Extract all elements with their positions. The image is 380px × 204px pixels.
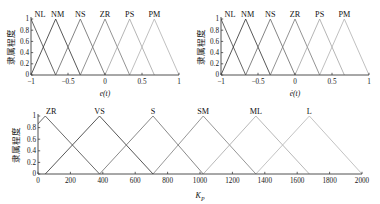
- mf-name-label-nm: NM: [241, 10, 255, 19]
- mf-triangle-l: [256, 116, 362, 174]
- mf-triangle-vs: [45, 116, 153, 174]
- mf-name-label-sm: SM: [197, 107, 210, 116]
- x-tick-label: 400: [97, 177, 108, 185]
- x-tick-label: 800: [162, 177, 173, 185]
- mf-triangle-nm: [221, 19, 270, 75]
- y-tick-label: 1: [32, 112, 36, 120]
- y-tick-label: 0.6: [27, 136, 36, 144]
- x-tick-label: −0.5: [61, 78, 74, 86]
- mf-triangle-pm: [130, 19, 179, 75]
- mf-triangle-sm: [153, 116, 256, 174]
- mf-name-label-ns: NS: [265, 10, 276, 19]
- mf-triangle-zr: [270, 19, 319, 75]
- x-tick-label: 0: [36, 177, 40, 185]
- y-tick-label: 0.4: [27, 147, 36, 155]
- mf-name-label-vs: VS: [94, 107, 105, 116]
- y-tick-label: 0.2: [27, 159, 36, 167]
- x-tick-label: 1400: [258, 177, 273, 185]
- x-tick-label: 0.5: [328, 78, 337, 86]
- mf-name-label-nm: NM: [51, 10, 65, 19]
- mf-triangle-ns: [56, 19, 105, 75]
- chart-panel-kp: 隶属程度 00.20.40.60.81020040060080010001200…: [0, 100, 380, 202]
- plot-area-kp: 00.20.40.60.8102004006008001000120014001…: [0, 100, 380, 202]
- x-tick-label: −1: [217, 78, 225, 86]
- x-tick-label: 1000: [193, 177, 208, 185]
- chart-panel-edot: 隶属程度 00.20.40.60.81−1−0.500.51ė(t)NLNMNS…: [190, 2, 376, 98]
- x-tick-label: 1200: [225, 177, 240, 185]
- x-tick-label: 1800: [322, 177, 337, 185]
- x-tick-label: 200: [65, 177, 76, 185]
- axis-lines: [38, 114, 362, 174]
- y-tick-label: 0.8: [20, 27, 29, 35]
- mf-name-label-ns: NS: [75, 10, 86, 19]
- x-tick-label: 0.5: [138, 78, 147, 86]
- x-tick-label: 1: [367, 78, 371, 86]
- x-tick-label: 0: [103, 78, 107, 86]
- mf-triangle-ps: [295, 19, 344, 75]
- axis-lines: [31, 17, 179, 75]
- mf-name-label-zr: ZR: [46, 107, 57, 116]
- axis-lines: [221, 17, 369, 75]
- y-tick-label: 0.2: [210, 60, 219, 68]
- y-tick-label: 1: [25, 15, 29, 23]
- plot-area-e: 00.20.40.60.81−1−0.500.51e(t)NLNMNSZRPSP…: [0, 2, 186, 98]
- mf-name-label-nl: NL: [35, 10, 46, 19]
- y-tick-label: 0.6: [20, 38, 29, 46]
- mf-triangle-nm: [31, 19, 80, 75]
- x-tick-label: 600: [130, 177, 141, 185]
- plot-area-edot: 00.20.40.60.81−1−0.500.51ė(t)NLNMNSZRPSP…: [190, 2, 376, 98]
- mf-name-label-pm: PM: [148, 10, 161, 19]
- chart-panel-e: 隶属程度 00.20.40.60.81−1−0.500.51e(t)NLNMNS…: [0, 2, 186, 98]
- mf-name-label-nl: NL: [225, 10, 236, 19]
- x-axis-label: ė(t): [290, 89, 301, 98]
- x-axis-label: e(t): [100, 89, 111, 98]
- mf-name-label-pm: PM: [338, 10, 351, 19]
- x-tick-label: 1600: [290, 177, 305, 185]
- y-tick-label: 0.8: [27, 124, 36, 132]
- mf-name-label-ps: PS: [125, 10, 135, 19]
- fuzzy-membership-figure: 隶属程度 00.20.40.60.81−1−0.500.51e(t)NLNMNS…: [0, 0, 380, 204]
- y-tick-label: 0.2: [20, 60, 29, 68]
- x-tick-label: −1: [27, 78, 35, 86]
- mf-name-label-s: S: [151, 107, 156, 116]
- x-tick-label: 2000: [355, 177, 370, 185]
- y-tick-label: 0.6: [210, 38, 219, 46]
- y-tick-label: 0.4: [20, 49, 29, 57]
- mf-name-label-zr: ZR: [290, 10, 301, 19]
- mf-name-label-ml: ML: [250, 107, 262, 116]
- y-tick-label: 0.8: [210, 27, 219, 35]
- mf-triangle-pm: [320, 19, 369, 75]
- mf-triangle-zr: [80, 19, 129, 75]
- mf-name-label-l: L: [307, 107, 312, 116]
- mf-triangle-ns: [246, 19, 295, 75]
- x-tick-label: 1: [177, 78, 181, 86]
- mf-name-label-zr: ZR: [100, 10, 111, 19]
- mf-triangle-s: [100, 116, 204, 174]
- mf-triangle-zr: [0, 116, 100, 174]
- y-tick-label: 1: [215, 15, 219, 23]
- y-tick-label: 0.4: [210, 49, 219, 57]
- mf-name-label-ps: PS: [315, 10, 325, 19]
- x-tick-label: −0.5: [251, 78, 264, 86]
- mf-triangle-ps: [105, 19, 154, 75]
- x-axis-label: KP: [195, 191, 205, 202]
- x-tick-label: 0: [293, 78, 297, 86]
- mf-triangle-ml: [203, 116, 309, 174]
